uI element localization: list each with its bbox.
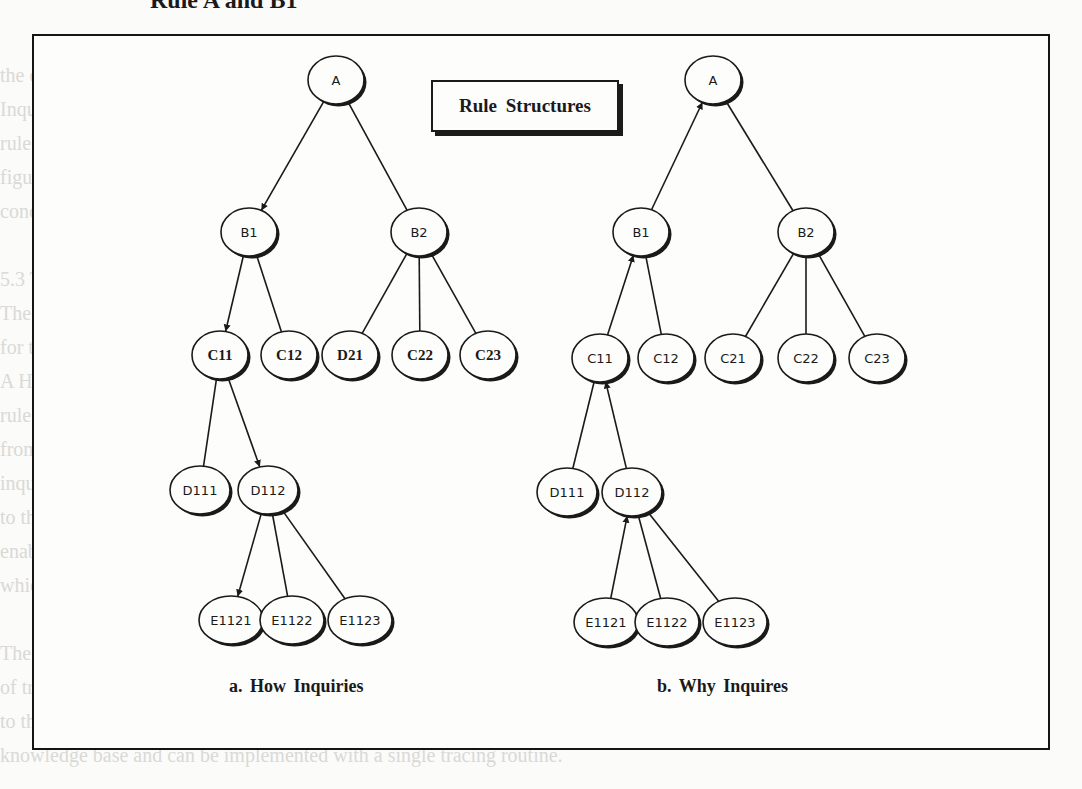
node-label: C11 [207,347,232,363]
node-b2: B2 [778,208,837,259]
edge-b1-c11 [226,256,244,332]
node-label: E1122 [271,613,312,628]
node-d112: D112 [238,466,301,517]
node-label: C12 [653,351,679,366]
edge-c11-d111 [204,379,217,466]
node-e1123: E1123 [703,598,770,649]
edge-d112-e1121 [611,516,628,599]
node-d111: D111 [537,468,600,519]
node-label: D111 [183,483,218,498]
node-label: E1123 [714,615,755,630]
edge-c11-d112 [606,382,627,469]
node-label: D111 [550,485,585,500]
node-e1121: E1121 [199,596,266,647]
node-c23: C23 [849,334,908,385]
edge-a-b2 [726,101,793,210]
node-e1123: E1123 [328,596,395,647]
edge-a-b2 [348,102,407,211]
node-c22: C22 [778,334,837,385]
node-a: A [685,56,744,107]
node-b1: B1 [613,208,672,259]
node-c22: C22 [392,331,451,382]
edge-b2-c21 [745,253,793,336]
node-label: E1123 [339,613,380,628]
node-e1121: E1121 [574,598,641,649]
figure-title: Rule Structures [459,95,591,117]
edge-b2-d21 [362,254,407,334]
edge-d112-e1122 [272,514,287,596]
why-inquiries-tree: AB1B2C11C12C21C22C23D111D112E1121E1122E1… [537,56,908,649]
node-label: A [709,73,718,88]
node-c12: C12 [638,334,697,385]
edge-b2-c22 [419,256,420,331]
edge-c11-d112 [228,378,260,467]
node-label: A [332,73,341,88]
edge-b1-c12 [257,255,282,332]
node-b1: B1 [221,208,280,259]
node-d111: D111 [170,466,233,517]
node-label: D21 [337,347,363,363]
node-c23: C23 [460,331,519,382]
node-label: C12 [276,347,302,363]
node-c11: C11 [192,331,251,382]
figure-title-box: Rule Structures [431,80,619,132]
node-label: D112 [251,483,286,498]
node-label: B2 [410,225,427,240]
edge-c11-d111 [573,381,594,468]
node-label: B2 [797,225,814,240]
caption-how-inquiries: a. How Inquiries [229,676,364,697]
edge-d112-e1122 [638,515,660,598]
node-label: D112 [615,485,650,500]
node-label: B1 [632,225,649,240]
node-d112: D112 [602,468,665,519]
node-label: C23 [475,347,501,363]
node-a: A [308,56,367,107]
edge-d112-e1123 [283,511,345,599]
node-c21: C21 [705,334,764,385]
node-b2: B2 [391,208,450,259]
how-inquiries-tree: AB1B2C11C12D21C22C23D111D112E1121E1122E1… [170,56,519,647]
caption-why-inquiries: b. Why Inquires [657,676,788,697]
node-label: E1121 [210,613,251,628]
node-label: E1122 [646,615,687,630]
node-label: C21 [720,351,746,366]
node-c11: C11 [572,334,631,385]
node-label: B1 [240,225,257,240]
edge-a-b1 [652,102,703,210]
node-label: C22 [407,347,433,363]
node-label: C23 [864,351,890,366]
edge-b2-c23 [431,254,476,334]
node-label: C11 [587,351,613,366]
edge-a-b1 [261,102,323,211]
edge-d112-e1121 [238,513,262,596]
node-label: C22 [793,351,819,366]
node-e1122: E1122 [635,598,702,649]
edge-b1-c11 [608,255,634,335]
node-label: E1121 [585,615,626,630]
edge-b2-c23 [818,254,865,337]
node-c12: C12 [261,331,320,382]
edge-b1-c12 [646,256,662,335]
node-d21: D21 [322,331,381,382]
node-e1122: E1122 [260,596,327,647]
